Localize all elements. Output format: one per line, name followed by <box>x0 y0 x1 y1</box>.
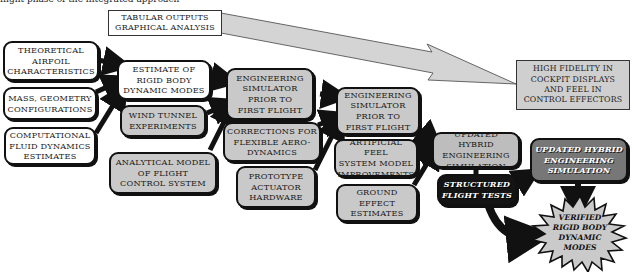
analytical-model-box: ANALYTICAL MODEL OF FLIGHT CONTROL SYSTE… <box>109 152 217 194</box>
arrow-mass-to-estimate <box>96 82 118 92</box>
engineering-simulator-1-box: ENGINEERING SIMULATOR PRIOR TO FIRST FLI… <box>226 68 314 120</box>
flexible-aero-corrections-box: CORRECTIONS FOR FLEXIBLE AERO- DYNAMICS <box>223 122 321 162</box>
high-fidelity-goal-box: HIGH FIDELITY IN COCKPIT DISPLAYS AND FE… <box>516 60 630 110</box>
verified-rigid-body-modes-label: VERIFIED RIGID BODY DYNAMIC MODES <box>548 213 612 253</box>
tabular-outputs-box: TABULAR OUTPUTS GRAPHICAL ANALYSIS <box>108 10 222 36</box>
arrow-feel-to-hybrid1 <box>416 148 432 155</box>
arrow-tests-to-verified <box>488 204 530 237</box>
ground-effect-box: GROUND EFFECT ESTIMATES <box>336 184 418 222</box>
flowchart-diagram: flight phase of the integrated approach … <box>0 0 634 272</box>
mass-geometry-box: MASS, GEOMETRY CONFIGURATIONS <box>3 87 97 120</box>
wind-tunnel-box: WIND TUNNEL EXPERIMENTS <box>120 105 206 137</box>
prototype-actuator-box: PROTOTYPE ACTUATOR HARDWARE <box>236 166 316 208</box>
top-caption: flight phase of the integrated approach <box>0 0 179 4</box>
arrow-flex-to-sim2 <box>318 118 336 125</box>
arrow-estimate-to-sim1 <box>211 77 226 80</box>
arrow-sim1-to-sim2 <box>320 94 336 96</box>
arrow-sim2-to-hybrid1 <box>418 128 432 140</box>
rigid-body-estimate-box: ESTIMATE OF RIGID BODY DYNAMIC MODES <box>117 60 211 100</box>
updated-hybrid-sim-2-box: UPDATED HYBRID ENGINEERING SIMULATION <box>530 138 628 182</box>
arrow-tests-to-hybrid2 <box>519 176 529 182</box>
artificial-feel-box: ARTIFICIAL FEEL SYSTEM MODEL IMPROVEMENT… <box>334 139 418 177</box>
cfd-estimates-box: COMPUTATIONAL FLUID DYNAMICS ESTIMATES <box>4 127 96 165</box>
updated-hybrid-sim-1-box: UPDATED HYBRID ENGINEERING SIMULATION <box>432 132 520 168</box>
arrow-cfd-to-estimate <box>96 94 120 133</box>
arrow-windtunnel-to-sim1 <box>207 105 226 113</box>
theoretical-airfoil-box: THEORETICAL AIRFOIL CHARACTERISTICS <box>3 41 99 81</box>
structured-flight-tests-box: STRUCTURED FLIGHT TESTS <box>437 174 517 206</box>
arrow-airfoil-to-estimate <box>98 60 118 64</box>
engineering-simulator-2-box: ENGINEERING SIMULATOR PRIOR TO FIRST FLI… <box>336 87 420 135</box>
